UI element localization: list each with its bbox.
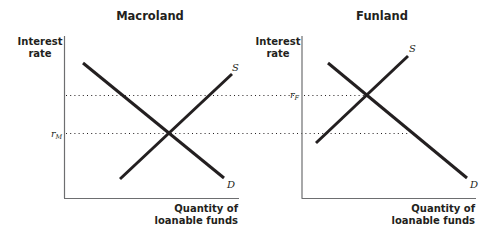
panel-funland: Funland Interest rate rF S D Quantity of…	[256, 9, 478, 226]
x-axis-label: loanable funds	[155, 215, 239, 226]
y-axis-label: rate	[266, 48, 289, 59]
supply-curve	[316, 56, 408, 143]
y-axis-label: Interest	[18, 36, 63, 47]
demand-label: D	[226, 179, 235, 190]
demand-curve	[83, 63, 224, 178]
demand-curve	[328, 63, 467, 178]
panel-title: Funland	[356, 9, 408, 23]
demand-label: D	[469, 179, 478, 190]
panel-title: Macroland	[116, 9, 184, 23]
x-axis-label: loanable funds	[392, 215, 476, 226]
x-axis-label: Quantity of	[174, 203, 238, 214]
y-axis-label: Interest	[256, 36, 301, 47]
loanable-funds-diagram: Macroland Interest rate rM S D Quantity …	[0, 0, 501, 238]
panel-macroland: Macroland Interest rate rM S D Quantity …	[18, 9, 239, 226]
rate-label-rf: rF	[290, 89, 300, 102]
x-axis-label: Quantity of	[411, 203, 475, 214]
supply-curve	[120, 74, 232, 179]
supply-label: S	[409, 43, 416, 54]
supply-label: S	[232, 62, 239, 73]
y-axis-label: rate	[28, 48, 51, 59]
rate-label-rm: rM	[51, 128, 63, 141]
